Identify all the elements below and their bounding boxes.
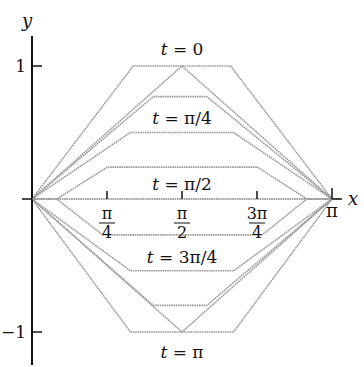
time-annotation: t = π/2 [152, 174, 212, 194]
x-tick-denominator: 2 [177, 223, 187, 242]
x-tick-numerator: 3π [247, 204, 268, 223]
x-tick-denominator: 4 [102, 223, 112, 242]
time-annotation: t = π [160, 342, 203, 362]
y-tick-label: −1 [1, 322, 26, 342]
time-annotation: t = 0 [161, 39, 204, 59]
x-tick-denominator: 4 [252, 223, 262, 242]
time-annotation: t = π/4 [152, 108, 212, 128]
y-tick-label: 1 [15, 56, 26, 76]
x-tick-label: π [326, 200, 338, 221]
string-vibration-chart: 1−1π4π23π4πxyt = 0t = π/4t = π/2t = 3π/4… [0, 0, 364, 367]
x-tick-numerator: π [177, 204, 188, 223]
x-tick-numerator: π [102, 204, 113, 223]
x-axis-label: x [348, 188, 358, 209]
y-axis-label: y [21, 10, 33, 31]
labels: 1−1π4π23π4πxyt = 0t = π/4t = π/2t = 3π/4… [1, 10, 358, 362]
time-annotation: t = 3π/4 [147, 247, 217, 267]
